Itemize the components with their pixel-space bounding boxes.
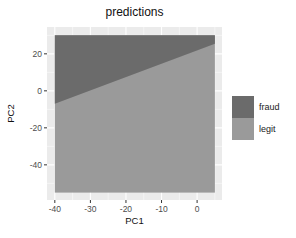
legend-key-legit [232,118,254,140]
x-tick-label: -30 [84,204,97,214]
x-tick-label: -20 [120,204,133,214]
legend-label: fraud [259,102,280,112]
x-tick-label: -40 [49,204,62,214]
legend: fraud legit [232,96,280,140]
legend-label: legit [259,124,276,134]
y-tick-label: -20 [30,123,43,133]
x-tick-label: 0 [195,204,200,214]
x-axis-title: PC1 [125,215,143,226]
legend-key-fraud [232,96,254,118]
y-tick-label: -40 [30,160,43,170]
y-tick-label: 0 [37,86,42,96]
y-axis-title: PC2 [5,104,16,122]
y-tick-label: 20 [33,49,43,59]
legend-item-legit: legit [232,118,280,140]
x-tick-label: -10 [155,204,168,214]
legend-item-fraud: fraud [232,96,280,118]
